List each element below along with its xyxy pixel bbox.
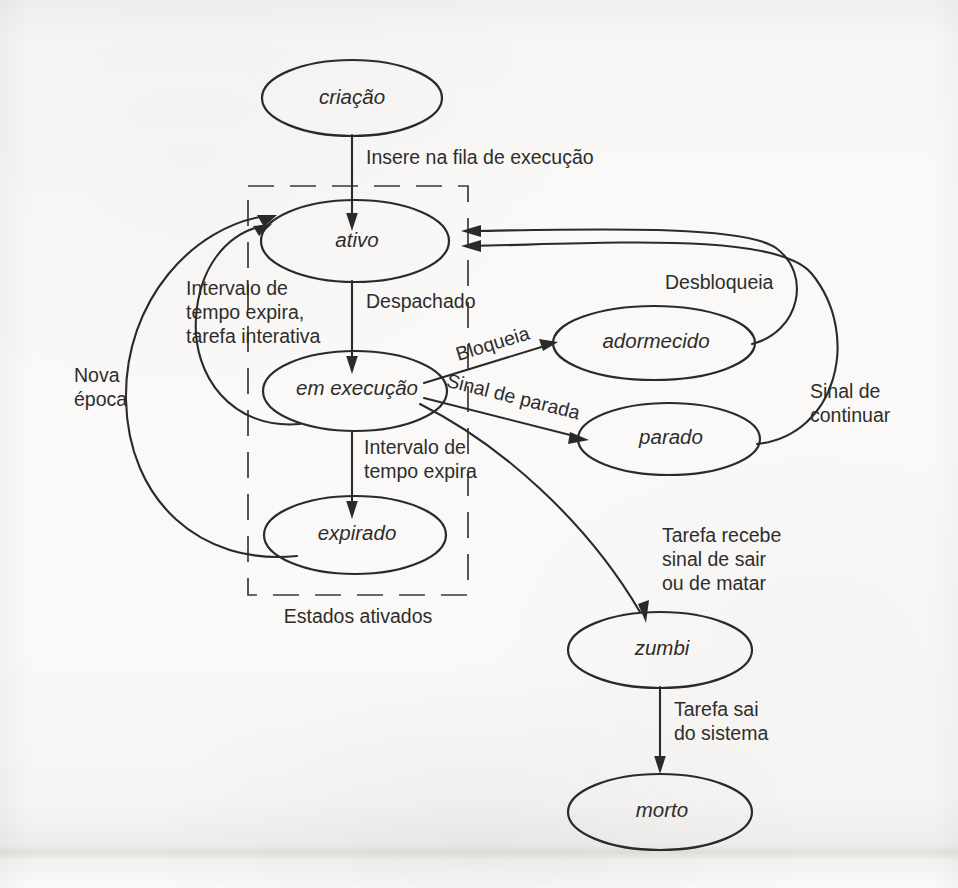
edge-label-despachado: Despachado — [366, 290, 476, 312]
state-label-ativo: ativo — [335, 228, 378, 251]
edge-label-bloqueia: Bloqueia — [453, 322, 532, 365]
edge-label-intervalo-tempo-expira: Intervalo de tempo expira — [364, 436, 477, 482]
state-label-expirado: expirado — [318, 521, 397, 544]
edge-label-intervalo-interativa-line3: tarefa interativa — [186, 325, 321, 347]
state-diagram-canvas: criação ativo em execução expirado adorm… — [0, 0, 958, 888]
state-label-morto: morto — [636, 798, 688, 821]
state-node-criacao[interactable]: criação — [262, 60, 442, 136]
state-label-parado: parado — [638, 425, 703, 448]
edge-label-intervalo-interativa-line2: tempo expira, — [186, 301, 304, 323]
edge-label-sinal-de-parada: Sinal de parada — [445, 369, 583, 423]
edge-ativo-to-em-execucao — [346, 281, 358, 374]
state-label-em-execucao: em execução — [296, 376, 418, 399]
diagram-page: criação ativo em execução expirado adorm… — [0, 0, 958, 888]
state-node-adormecido[interactable]: adormecido — [553, 306, 755, 380]
edge-label-sinal-continuar-line2: continuar — [810, 404, 891, 426]
edge-label-intervalo-interativa-line1: Intervalo de — [186, 277, 288, 299]
edge-zumbi-to-morto — [654, 687, 666, 774]
state-node-morto[interactable]: morto — [568, 774, 752, 850]
edge-label-tarefa-sai-do-sistema: Tarefa sai do sistema — [674, 698, 768, 744]
edge-label-nova-epoca-line1: Nova — [74, 364, 120, 386]
edge-label-tarefa-sinal-line3: ou de matar — [662, 572, 767, 594]
edge-em-execucao-to-expirado — [346, 432, 358, 519]
edge-label-tarefa-sai-line1: Tarefa sai — [674, 698, 759, 720]
edge-label-intervalo-tarefa-interativa: Intervalo de tempo expira, tarefa intera… — [186, 277, 321, 347]
state-node-parado[interactable]: parado — [578, 403, 760, 475]
edge-label-intervalo-expira-line2: tempo expira — [364, 460, 477, 482]
edge-label-nova-epoca-line2: época — [74, 388, 127, 410]
edge-label-tarefa-recebe-sinal: Tarefa recebe sinal de sair ou de matar — [662, 524, 781, 594]
group-label-estados-ativados: Estados ativados — [284, 605, 433, 627]
state-label-criacao: criação — [319, 85, 385, 108]
state-node-zumbi[interactable]: zumbi — [568, 612, 752, 688]
state-label-zumbi: zumbi — [634, 636, 691, 659]
edge-label-tarefa-sinal-line1: Tarefa recebe — [662, 524, 781, 546]
state-label-adormecido: adormecido — [602, 329, 709, 352]
edge-label-tarefa-sai-line2: do sistema — [674, 722, 768, 744]
edge-criacao-to-ativo — [346, 135, 358, 231]
edge-label-intervalo-expira-line1: Intervalo de — [364, 436, 466, 458]
edge-label-insere-na-fila: Insere na fila de execução — [366, 146, 594, 168]
edge-expirado-to-ativo — [126, 215, 297, 557]
edge-label-sinal-continuar-line1: Sinal de — [810, 380, 880, 402]
edge-label-desbloqueia: Desbloqueia — [665, 271, 774, 293]
edge-label-nova-epoca: Nova época — [74, 364, 127, 410]
edge-label-tarefa-sinal-line2: sinal de sair — [662, 548, 767, 570]
state-node-ativo[interactable]: ativo — [261, 200, 449, 282]
